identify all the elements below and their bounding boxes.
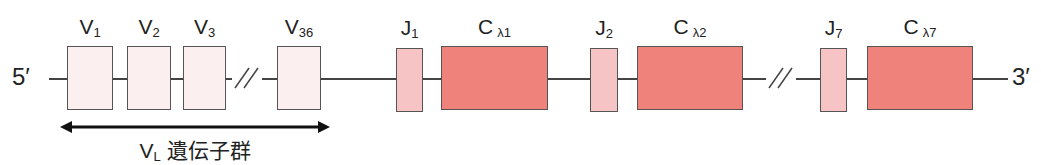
j-label-sub: 1 bbox=[411, 26, 418, 41]
v-segment-box bbox=[127, 46, 171, 110]
v-segment-box bbox=[183, 46, 226, 110]
v-label-sub: 2 bbox=[152, 25, 159, 40]
j-label-main: J bbox=[825, 16, 836, 39]
j-label-sub: 7 bbox=[835, 26, 842, 41]
vl-range-arrow-icon bbox=[60, 120, 330, 134]
v-segment-box bbox=[277, 46, 321, 110]
j-segment-box bbox=[590, 48, 618, 112]
v-label-sub: 1 bbox=[93, 25, 100, 40]
j-label-sub: 2 bbox=[606, 26, 613, 41]
c-segment-box bbox=[637, 46, 743, 110]
v-segment-box bbox=[67, 46, 113, 110]
v-label-main: V bbox=[194, 15, 208, 38]
v-segment-label: V36 bbox=[285, 15, 313, 45]
break-mark-icon bbox=[232, 63, 262, 93]
j-label-main: J bbox=[595, 16, 606, 39]
j-segment-label: J1 bbox=[401, 16, 419, 46]
three-prime-label: 3′ bbox=[1012, 64, 1030, 90]
five-prime-label: 5′ bbox=[12, 64, 30, 90]
v-label-main: V bbox=[285, 15, 299, 38]
c-segment-label: Cλ7 bbox=[904, 15, 937, 45]
c-segment-box bbox=[441, 46, 548, 110]
v-segment-label: V1 bbox=[79, 15, 100, 45]
break-mark-icon bbox=[766, 63, 796, 93]
j-segment-box bbox=[820, 48, 847, 112]
j-segment-box bbox=[396, 48, 423, 112]
c-segment-label: Cλ2 bbox=[674, 15, 707, 45]
j-label-main: J bbox=[401, 16, 412, 39]
v-label-sub: 3 bbox=[208, 25, 215, 40]
c-label-main: C bbox=[674, 15, 689, 38]
v-segment-label: V2 bbox=[138, 15, 159, 45]
j-segment-label: J7 bbox=[825, 16, 843, 46]
v-label-main: V bbox=[79, 15, 93, 38]
v-segment-label: V3 bbox=[194, 15, 215, 45]
v-label-main: V bbox=[138, 15, 152, 38]
c-segment-box bbox=[867, 46, 973, 110]
c-label-sub: λ1 bbox=[497, 25, 511, 40]
v-label-sub: 36 bbox=[299, 25, 313, 40]
j-segment-label: J2 bbox=[595, 16, 613, 46]
c-label-sub: λ7 bbox=[923, 25, 937, 40]
c-label-main: C bbox=[904, 15, 919, 38]
c-label-main: C bbox=[478, 15, 493, 38]
c-segment-label: Cλ1 bbox=[478, 15, 511, 45]
vl-text: 遺伝子群 bbox=[161, 139, 251, 162]
vl-gene-group-label: VL 遺伝子群 bbox=[139, 139, 250, 165]
vl-main: V bbox=[139, 139, 153, 162]
c-label-sub: λ2 bbox=[693, 25, 707, 40]
